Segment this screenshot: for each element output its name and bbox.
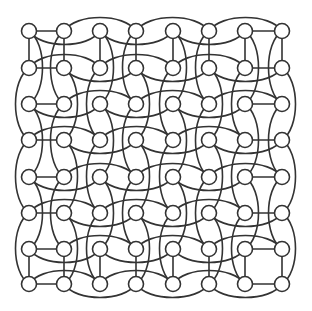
graph-node	[93, 170, 108, 185]
graph-node	[202, 97, 217, 112]
graph-node	[22, 24, 37, 39]
graph-node	[275, 24, 290, 39]
graph-node	[129, 242, 144, 257]
graph-node	[93, 133, 108, 148]
graph-node	[238, 206, 253, 221]
graph-node	[57, 24, 72, 39]
graph-node	[166, 133, 181, 148]
graph-node	[275, 61, 290, 76]
graph-node	[93, 24, 108, 39]
graph-node	[202, 277, 217, 292]
graph-node	[275, 242, 290, 257]
graph-node	[166, 206, 181, 221]
graph-node	[93, 277, 108, 292]
grid-graph-diagram	[0, 0, 312, 311]
graph-node	[129, 170, 144, 185]
graph-node	[57, 133, 72, 148]
graph-node	[22, 277, 37, 292]
graph-node	[57, 61, 72, 76]
graph-node	[57, 277, 72, 292]
graph-node	[129, 97, 144, 112]
graph-node	[166, 277, 181, 292]
graph-node	[275, 133, 290, 148]
graph-node	[202, 61, 217, 76]
nodes-layer	[22, 24, 290, 292]
graph-node	[22, 242, 37, 257]
graph-node	[129, 24, 144, 39]
graph-node	[93, 61, 108, 76]
edges-layer	[16, 18, 296, 298]
graph-node	[275, 206, 290, 221]
graph-node	[238, 97, 253, 112]
graph-node	[129, 133, 144, 148]
graph-node	[93, 242, 108, 257]
graph-node	[202, 206, 217, 221]
graph-node	[57, 242, 72, 257]
graph-node	[129, 61, 144, 76]
graph-node	[57, 170, 72, 185]
graph-node	[166, 242, 181, 257]
graph-node	[129, 277, 144, 292]
graph-node	[57, 97, 72, 112]
graph-node	[166, 170, 181, 185]
graph-node	[166, 24, 181, 39]
graph-node	[93, 97, 108, 112]
graph-node	[22, 206, 37, 221]
graph-node	[93, 206, 108, 221]
graph-node	[166, 97, 181, 112]
graph-node	[238, 61, 253, 76]
graph-node	[166, 61, 181, 76]
graph-node	[275, 97, 290, 112]
graph-node	[202, 242, 217, 257]
graph-node	[22, 170, 37, 185]
graph-node	[22, 61, 37, 76]
graph-node	[275, 170, 290, 185]
graph-node	[275, 277, 290, 292]
graph-node	[238, 277, 253, 292]
graph-node	[202, 24, 217, 39]
graph-node	[238, 170, 253, 185]
graph-node	[57, 206, 72, 221]
graph-node	[22, 133, 37, 148]
graph-node	[22, 97, 37, 112]
graph-node	[129, 206, 144, 221]
graph-node	[202, 170, 217, 185]
graph-node	[238, 24, 253, 39]
graph-node	[238, 133, 253, 148]
graph-node	[202, 133, 217, 148]
graph-node	[238, 242, 253, 257]
